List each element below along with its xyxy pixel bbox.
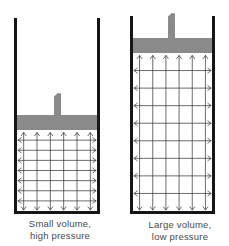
cylinder-base: [130, 211, 215, 214]
piston-handle: [54, 93, 61, 116]
cylinder-base: [14, 211, 100, 214]
cylinder-left-wall: [130, 16, 133, 214]
large-volume-cylinder: [130, 13, 215, 214]
small-volume-cylinder: [14, 18, 100, 214]
cylinder-right-wall: [212, 16, 215, 214]
pressure-volume-diagram: Small volume, high pressure Large volume…: [0, 0, 229, 246]
pressure-arrows: [18, 133, 96, 211]
cylinder-left-wall: [14, 18, 17, 214]
large-volume-label-line2: low pressure: [132, 231, 228, 243]
large-volume-label-line1: Large volume,: [132, 219, 228, 231]
pressure-arrows: [134, 56, 211, 211]
small-volume-label-line1: Small volume,: [12, 218, 108, 230]
cylinder-right-wall: [97, 18, 100, 214]
large-volume-label: Large volume, low pressure: [132, 219, 228, 242]
small-volume-label-line2: high pressure: [12, 230, 108, 242]
piston-handle: [168, 13, 175, 39]
small-volume-label: Small volume, high pressure: [12, 218, 108, 241]
piston: [17, 115, 97, 130]
piston: [133, 38, 212, 53]
diagram-canvas: [0, 0, 229, 246]
